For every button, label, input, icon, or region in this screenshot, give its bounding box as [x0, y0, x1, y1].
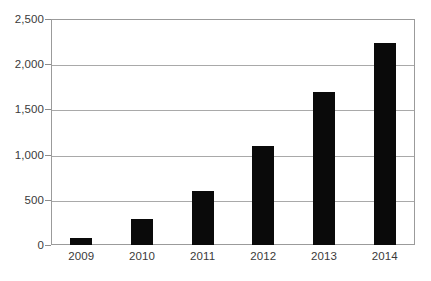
y-axis-tick-label: 2,500 — [0, 13, 44, 25]
bar-2009[interactable] — [70, 238, 92, 245]
bar-2014[interactable] — [374, 43, 396, 245]
bar-2012[interactable] — [252, 146, 274, 245]
x-axis-tick-label: 2012 — [233, 250, 293, 263]
y-axis-tick-label: 0 — [0, 239, 44, 251]
bars-layer — [51, 19, 415, 245]
y-axis-tick-label: 500 — [0, 194, 44, 206]
x-axis-tick-label: 2014 — [355, 250, 415, 263]
x-axis-tick-label: 2010 — [112, 250, 172, 263]
y-axis-tick-label: 1,000 — [0, 149, 44, 161]
x-axis-tick-label: 2009 — [51, 250, 111, 263]
bar-chart: 2,500 2,000 1,500 1,000 500 0 2009 2010 … — [0, 0, 431, 281]
y-axis-tick-label: 2,000 — [0, 58, 44, 70]
y-axis-tick-label: 1,500 — [0, 103, 44, 115]
bar-2013[interactable] — [313, 92, 335, 245]
bar-2010[interactable] — [131, 219, 153, 245]
bar-2011[interactable] — [192, 191, 214, 245]
y-axis-tick-mark — [45, 245, 51, 246]
y-axis: 2,500 2,000 1,500 1,000 500 0 — [0, 0, 44, 281]
x-axis: 2009 2010 2011 2012 2013 2014 — [51, 250, 415, 270]
x-axis-tick-label: 2013 — [294, 250, 354, 263]
x-axis-tick-label: 2011 — [173, 250, 233, 263]
